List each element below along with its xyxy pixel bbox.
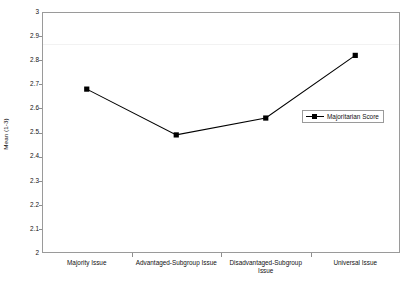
chart-legend[interactable]: Majoritarian Score bbox=[302, 110, 384, 123]
line-chart: Mean (1-3) 22.12.22.32.42.52.62.72.82.93… bbox=[0, 0, 412, 289]
data-point-marker bbox=[263, 115, 268, 120]
x-axis-tick-label: Disadvantaged-Subgroup Issue bbox=[221, 259, 311, 276]
legend-label: Majoritarian Score bbox=[327, 113, 379, 120]
x-axis-tick-mark bbox=[311, 253, 312, 257]
y-axis-tick-label: 2.2 bbox=[3, 202, 39, 208]
y-axis-tick-label: 2.3 bbox=[3, 178, 39, 184]
data-point-marker bbox=[84, 87, 89, 92]
y-axis-tick-label: 2.1 bbox=[3, 226, 39, 232]
data-point-marker bbox=[174, 132, 179, 137]
y-axis-tick-label: 2.6 bbox=[3, 105, 39, 111]
legend-marker-icon bbox=[306, 113, 324, 120]
data-point-marker bbox=[353, 53, 358, 58]
y-axis-tick-label: 2.4 bbox=[3, 153, 39, 159]
series-layer bbox=[42, 12, 400, 253]
x-axis-tick-labels: Majority IssueAdvantaged-Subgroup IssueD… bbox=[42, 259, 400, 285]
y-axis-tick-label: 2.9 bbox=[3, 33, 39, 39]
x-axis-tick-label: Universal Issue bbox=[311, 259, 401, 267]
x-axis-tick-label: Advantaged-Subgroup Issue bbox=[132, 259, 222, 267]
y-axis-tick-label: 2.8 bbox=[3, 57, 39, 63]
x-axis-tick-mark bbox=[221, 253, 222, 257]
y-axis-tick-label: 2.7 bbox=[3, 81, 39, 87]
y-axis-tick-label: 2 bbox=[3, 250, 39, 256]
y-axis-tick-labels: 22.12.22.32.42.52.62.72.82.93 bbox=[0, 0, 39, 289]
x-axis-tick-label: Majority Issue bbox=[42, 259, 132, 267]
y-axis-tick-label: 2.5 bbox=[3, 129, 39, 135]
y-axis-tick-label: 3 bbox=[3, 9, 39, 15]
x-axis-tick-mark bbox=[132, 253, 133, 257]
x-axis-tick-marks bbox=[42, 253, 400, 258]
